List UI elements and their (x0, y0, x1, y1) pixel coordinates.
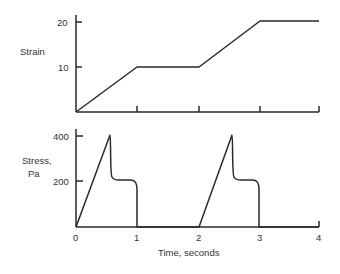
stress-tick-400: 400 (53, 131, 69, 142)
stress-chart: Stress, Pa 400 200 0 1 2 3 4 Time, secon… (22, 129, 321, 258)
stress-axis-label-line2: Pa (28, 168, 40, 179)
strain-curve (76, 21, 319, 112)
strain-tick-20: 20 (57, 17, 68, 28)
strain-stress-figure: Strain 20 10 Stress, Pa 400 200 0 1 2 3 … (0, 0, 340, 274)
time-tick-4: 4 (316, 232, 321, 243)
strain-y-ticks (76, 22, 82, 67)
time-axis-label: Time, seconds (158, 247, 220, 258)
strain-tick-10: 10 (58, 62, 69, 73)
strain-chart: Strain 20 10 (20, 15, 319, 112)
time-tick-3: 3 (257, 232, 262, 243)
stress-axis-label-line1: Stress, (22, 155, 52, 166)
time-tick-0: 0 (73, 232, 78, 243)
stress-curve (76, 135, 319, 227)
strain-x-ticks (137, 106, 319, 112)
stress-y-ticks (76, 136, 83, 181)
strain-axis-label: Strain (20, 46, 45, 57)
time-tick-1: 1 (134, 232, 139, 243)
time-tick-2: 2 (196, 232, 201, 243)
stress-tick-200: 200 (53, 176, 69, 187)
